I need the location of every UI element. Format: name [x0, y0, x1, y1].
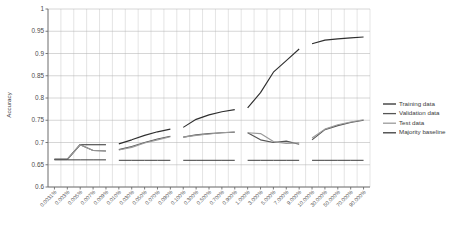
y-axis-title: Accuracy [5, 91, 12, 117]
y-tick-label: 0.9 [35, 50, 44, 57]
svg-text:Accuracy: Accuracy [5, 91, 12, 117]
y-tick-label: 0.85 [32, 72, 45, 79]
y-tick-label: 0.8 [35, 94, 44, 101]
y-tick-label: 0.6 [35, 183, 44, 190]
accuracy-learning-curve-chart: 0.60.650.70.750.80.850.90.951 0.0031%0.0… [0, 0, 465, 233]
legend-label: Training data [399, 100, 435, 107]
y-tick-label: 0.75 [32, 116, 45, 123]
legend-label: Validation data [399, 109, 440, 116]
chart-screenshot: 0.60.650.70.750.80.850.90.951 0.0031%0.0… [0, 0, 465, 233]
y-tick-label: 1 [40, 5, 44, 12]
legend-label: Test data [399, 119, 425, 126]
legend-label: Majority baseline [399, 128, 446, 135]
y-tick-label: 0.7 [35, 139, 44, 146]
y-tick-label: 0.95 [32, 27, 45, 34]
y-tick-label: 0.65 [32, 161, 45, 168]
